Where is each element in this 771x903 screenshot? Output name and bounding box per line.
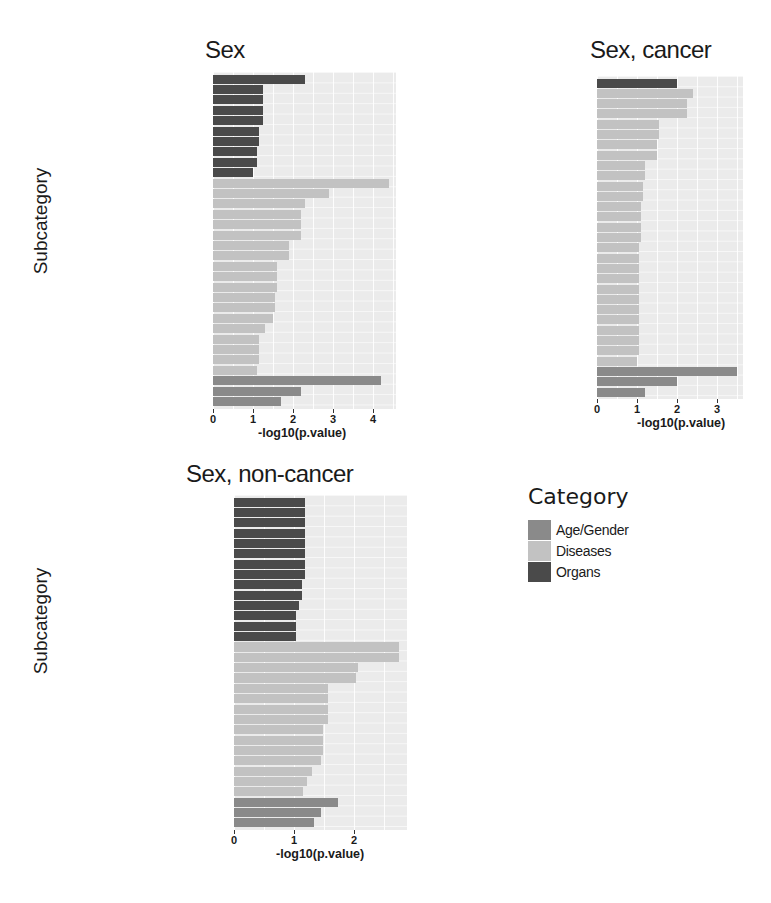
bar: [213, 127, 259, 136]
bar: [597, 274, 639, 283]
bar: [234, 705, 328, 714]
legend-swatch-diseases: [528, 541, 551, 561]
bar: [213, 179, 389, 188]
bar: [234, 818, 314, 827]
bar: [213, 168, 253, 177]
bar: [234, 518, 305, 527]
bar: [597, 377, 677, 386]
bar: [234, 611, 296, 620]
bar: [213, 376, 381, 385]
bar: [597, 264, 639, 273]
bar: [213, 272, 277, 281]
bar: [234, 591, 302, 600]
bar: [597, 120, 659, 129]
bar: [213, 95, 263, 104]
bar: [597, 223, 641, 232]
bar: [234, 601, 299, 610]
legend-item-organs: Organs: [528, 561, 629, 582]
bar: [234, 787, 303, 796]
bar: [597, 151, 657, 160]
x-tick-label: 3: [707, 403, 727, 415]
bar: [597, 192, 643, 201]
bar: [597, 336, 639, 345]
bar: [234, 756, 321, 765]
legend: Category Age/Gender Diseases Organs: [528, 484, 629, 582]
bar: [234, 580, 302, 589]
bar: [234, 570, 305, 579]
bar: [597, 89, 693, 98]
bar: [597, 109, 687, 118]
plot-area: [234, 495, 407, 830]
bar: [597, 315, 639, 324]
bar: [213, 283, 277, 292]
bar: [213, 210, 301, 219]
bar: [234, 767, 312, 776]
bar: [597, 305, 639, 314]
x-tick-label: 0: [224, 834, 244, 846]
plot-area: [597, 76, 743, 399]
bar: [213, 189, 329, 198]
x-tick-label: 3: [323, 413, 343, 425]
bar: [234, 715, 328, 724]
bar: [213, 324, 265, 333]
bar: [213, 158, 257, 167]
bar: [213, 251, 289, 260]
x-tick-label: 2: [344, 834, 364, 846]
legend-title: Category: [528, 484, 629, 509]
bar: [597, 367, 737, 376]
bar: [597, 233, 641, 242]
bar: [597, 326, 639, 335]
x-tick-label: 4: [363, 413, 383, 425]
bar: [597, 295, 639, 304]
bar: [213, 293, 275, 302]
bar: [234, 498, 305, 507]
bar: [234, 694, 328, 703]
x-tick-label: 0: [587, 403, 607, 415]
bar: [597, 161, 645, 170]
x-tick-label: 1: [284, 834, 304, 846]
bar: [597, 357, 637, 366]
bar: [234, 684, 328, 693]
bar: [234, 725, 323, 734]
bar: [597, 254, 639, 263]
bar: [234, 798, 338, 807]
bar: [213, 241, 289, 250]
bar: [597, 171, 645, 180]
bar: [597, 182, 643, 191]
legend-swatch-age-gender: [528, 520, 551, 540]
bar: [234, 653, 399, 662]
x-axis-label: -log10(p.value): [258, 426, 346, 440]
bar: [213, 262, 277, 271]
bar: [213, 199, 305, 208]
x-axis-label: -log10(p.value): [276, 847, 364, 861]
bar: [234, 529, 305, 538]
chart-title: Sex, cancer: [590, 36, 711, 64]
x-tick-label: 1: [243, 413, 263, 425]
bar: [234, 508, 305, 517]
bar: [597, 243, 639, 252]
y-axis-label: Subcategory: [30, 166, 52, 276]
bar: [234, 632, 296, 641]
bar: [597, 140, 657, 149]
bar: [213, 137, 259, 146]
legend-label: Age/Gender: [556, 522, 629, 538]
bar: [597, 388, 645, 397]
bar: [213, 303, 275, 312]
chart-title: Sex, non-cancer: [186, 460, 353, 488]
bar: [234, 663, 358, 672]
bar: [213, 397, 281, 406]
bar: [597, 79, 677, 88]
bar: [234, 549, 305, 558]
bar: [234, 560, 305, 569]
x-tick-label: 2: [283, 413, 303, 425]
bar: [213, 355, 259, 364]
legend-label: Organs: [556, 564, 600, 580]
bar: [213, 314, 273, 323]
bar: [213, 335, 259, 344]
x-axis-label: -log10(p.value): [637, 416, 725, 430]
bar: [213, 85, 263, 94]
bar: [597, 212, 641, 221]
bar: [213, 147, 257, 156]
bar: [234, 642, 399, 651]
bar: [234, 673, 356, 682]
